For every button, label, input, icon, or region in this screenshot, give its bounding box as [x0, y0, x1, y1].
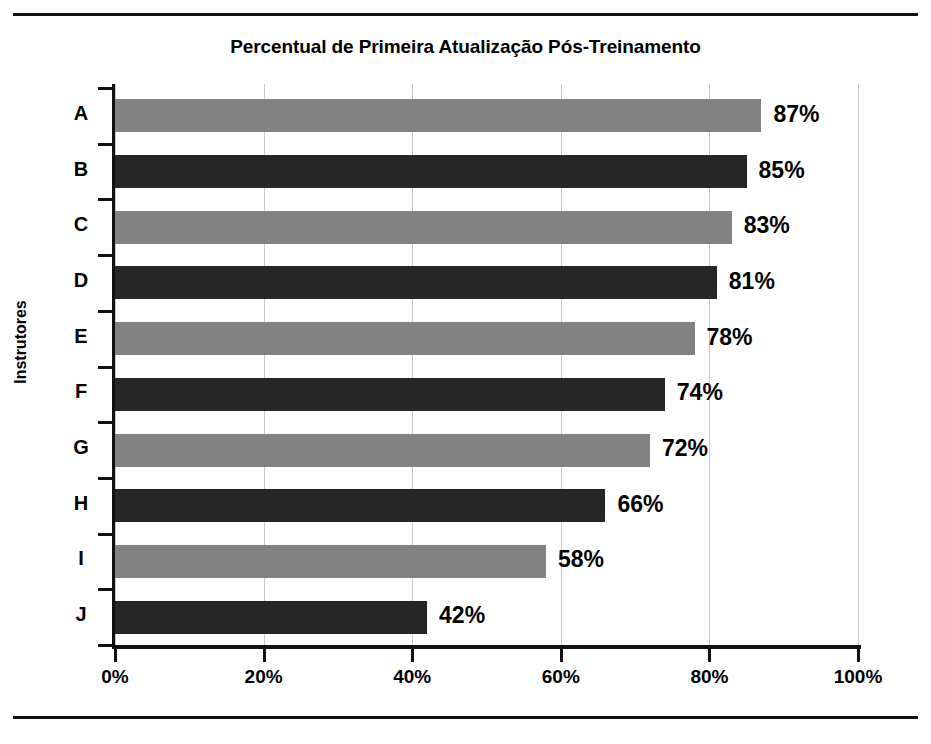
bar-a[interactable] [115, 99, 761, 132]
y-tick-mark [98, 477, 113, 480]
category-label-f: F [59, 380, 103, 403]
y-tick-mark [98, 87, 113, 90]
y-tick-mark [98, 143, 113, 146]
x-tick-label: 0% [70, 666, 160, 688]
x-tick-mark [411, 649, 414, 662]
bar-value-label-d: 81% [729, 268, 775, 295]
y-axis-title: Instrutores [12, 262, 30, 422]
category-label-b: B [59, 158, 103, 181]
x-tick-mark [114, 649, 117, 662]
category-label-d: D [59, 269, 103, 292]
y-tick-mark [98, 310, 113, 313]
y-tick-mark [98, 644, 113, 647]
y-tick-mark [98, 254, 113, 257]
bar-value-label-i: 58% [558, 546, 604, 573]
x-axis-spine [112, 645, 861, 649]
bar-value-label-g: 72% [662, 435, 708, 462]
bar-b[interactable] [115, 155, 747, 188]
y-tick-mark [98, 198, 113, 201]
bar-c[interactable] [115, 211, 732, 244]
bar-g[interactable] [115, 434, 650, 467]
plot-area: 0%20%40%60%80%100% 87%A85%B83%C81%D78%E7… [115, 88, 858, 645]
chart-figure: Percentual de Primeira Atualização Pós-T… [0, 0, 931, 744]
x-tick-label: 20% [219, 666, 309, 688]
bar-h[interactable] [115, 489, 605, 522]
bar-value-label-b: 85% [759, 157, 805, 184]
bar-value-label-f: 74% [677, 379, 723, 406]
category-label-a: A [59, 102, 103, 125]
x-tick-mark [708, 649, 711, 662]
bar-value-label-a: 87% [773, 101, 819, 128]
bar-value-label-e: 78% [707, 324, 753, 351]
category-label-e: E [59, 325, 103, 348]
y-tick-mark [98, 588, 113, 591]
bar-value-label-c: 83% [744, 212, 790, 239]
x-tick-mark [263, 649, 266, 662]
bar-e[interactable] [115, 322, 695, 355]
category-label-h: H [59, 492, 103, 515]
top-divider-rule [13, 13, 918, 16]
y-tick-mark [98, 533, 113, 536]
x-tick-label: 100% [813, 666, 903, 688]
x-tick-label: 40% [367, 666, 457, 688]
bar-i[interactable] [115, 545, 546, 578]
bar-value-label-j: 42% [439, 602, 485, 629]
category-label-c: C [59, 213, 103, 236]
category-label-g: G [59, 436, 103, 459]
bottom-divider-rule [13, 716, 918, 719]
category-label-i: I [59, 547, 103, 570]
x-tick-label: 60% [516, 666, 606, 688]
bar-j[interactable] [115, 601, 427, 634]
bar-value-label-h: 66% [617, 491, 663, 518]
chart-title: Percentual de Primeira Atualização Pós-T… [0, 36, 931, 58]
gridline-100 [858, 84, 859, 645]
y-tick-mark [98, 366, 113, 369]
bar-d[interactable] [115, 266, 717, 299]
y-tick-mark [98, 421, 113, 424]
category-label-j: J [59, 603, 103, 626]
x-tick-label: 80% [664, 666, 754, 688]
x-tick-mark [560, 649, 563, 662]
x-tick-mark [857, 649, 860, 662]
bar-f[interactable] [115, 378, 665, 411]
